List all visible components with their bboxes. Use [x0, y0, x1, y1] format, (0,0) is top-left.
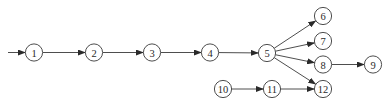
node-5: 5 — [258, 44, 275, 61]
directed-graph-diagram: 123456789101112 — [0, 0, 389, 106]
node-label: 5 — [264, 48, 269, 59]
node-4: 4 — [201, 44, 218, 61]
edge-5-to-8 — [275, 55, 314, 63]
node-1: 1 — [25, 44, 42, 61]
node-11: 11 — [263, 80, 280, 97]
node-6: 6 — [314, 7, 331, 24]
node-10: 10 — [214, 80, 231, 97]
node-label: 4 — [207, 48, 213, 59]
node-7: 7 — [314, 32, 331, 49]
edges-layer — [8, 21, 364, 89]
node-9: 9 — [364, 56, 381, 73]
node-label: 6 — [320, 11, 325, 22]
node-8: 8 — [314, 56, 331, 73]
node-label: 2 — [91, 48, 96, 59]
node-label: 10 — [218, 84, 229, 95]
node-label: 11 — [267, 84, 277, 95]
node-label: 7 — [320, 36, 325, 47]
node-label: 3 — [149, 48, 154, 59]
node-label: 9 — [370, 60, 375, 71]
node-3: 3 — [143, 44, 160, 61]
node-label: 1 — [31, 48, 36, 59]
node-2: 2 — [85, 44, 102, 61]
node-12: 12 — [314, 80, 331, 97]
node-label: 12 — [318, 84, 329, 95]
node-label: 8 — [320, 60, 325, 71]
